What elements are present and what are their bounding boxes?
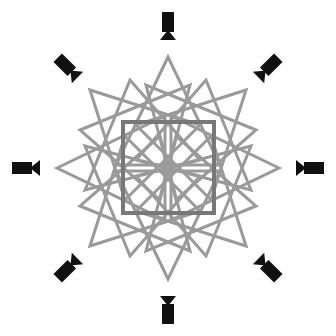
triangle-north — [116, 57, 220, 165]
camera-south-icon — [160, 296, 176, 324]
camera-northwest-icon — [52, 52, 83, 83]
triangle-west — [57, 116, 165, 220]
camera-north-icon — [160, 12, 176, 40]
triangle-east — [171, 116, 279, 220]
camera-west-icon — [12, 160, 40, 176]
multi-camera-diagram — [0, 0, 336, 336]
camera-northeast-icon — [253, 52, 284, 83]
camera-southeast-icon — [253, 253, 284, 284]
star-figure — [57, 57, 279, 279]
camera-east-icon — [296, 160, 324, 176]
triangle-south — [116, 171, 220, 279]
camera-southwest-icon — [52, 253, 83, 284]
